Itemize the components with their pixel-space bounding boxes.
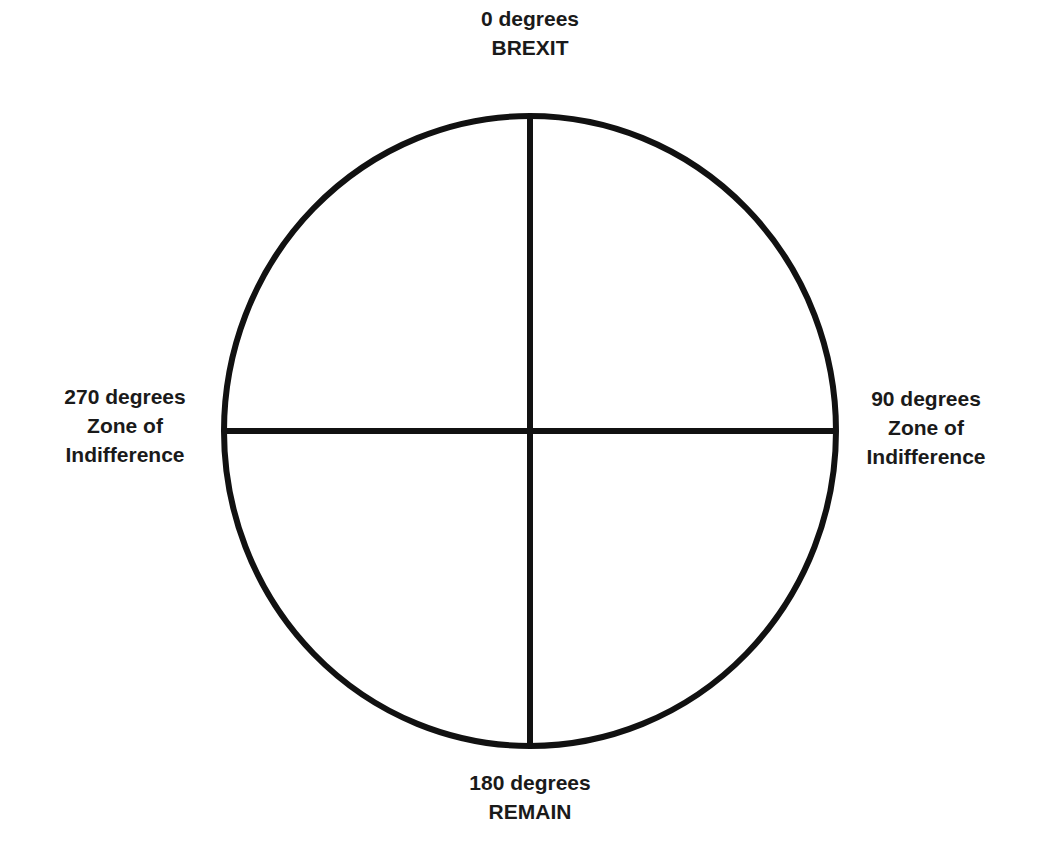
label-right-line3: Indifference xyxy=(832,442,1020,471)
label-left-line3: Indifference xyxy=(30,440,220,469)
label-bottom-meaning: REMAIN xyxy=(430,797,630,826)
label-right-angle: 90 degrees xyxy=(832,384,1020,413)
label-top-meaning: BREXIT xyxy=(430,33,630,62)
label-top-angle: 0 degrees xyxy=(430,4,630,33)
brexit-compass-diagram: 0 degrees BREXIT 90 degrees Zone of Indi… xyxy=(0,0,1044,866)
label-90-degrees-indifference: 90 degrees Zone of Indifference xyxy=(832,384,1020,471)
label-bottom-angle: 180 degrees xyxy=(430,768,630,797)
label-left-angle: 270 degrees xyxy=(30,382,220,411)
label-0-degrees-brexit: 0 degrees BREXIT xyxy=(430,4,630,62)
label-left-line2: Zone of xyxy=(30,411,220,440)
label-180-degrees-remain: 180 degrees REMAIN xyxy=(430,768,630,826)
label-right-line2: Zone of xyxy=(832,413,1020,442)
label-270-degrees-indifference: 270 degrees Zone of Indifference xyxy=(30,382,220,469)
